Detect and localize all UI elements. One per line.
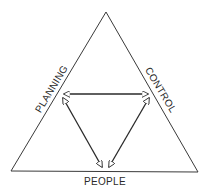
outer-triangle bbox=[11, 12, 198, 172]
arrow-control-people bbox=[109, 98, 149, 167]
arrow-planning-people bbox=[63, 98, 102, 167]
triangle-diagram: PLANNING CONTROL PEOPLE bbox=[0, 0, 209, 194]
label-people: PEOPLE bbox=[80, 176, 130, 187]
diagram-graphic bbox=[0, 0, 209, 194]
